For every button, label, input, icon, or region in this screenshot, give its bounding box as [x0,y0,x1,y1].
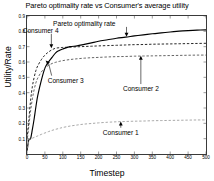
y-tick-label: 0.9 [19,14,25,19]
annotation-arrow [119,121,123,127]
annotation-arrow [46,60,52,75]
x-tick-label: 300 [131,155,139,160]
curve-annotation-label: Consumer 1 [103,128,139,135]
x-tick-label: 400 [166,155,174,160]
y-tick-label: 0.3 [19,106,25,111]
y-tick-label: 0.4 [19,90,25,95]
x-tick-label: 500 [202,155,210,160]
y-tick-label: 0.5 [19,75,25,80]
x-tick-label: 450 [184,155,192,160]
annotation-arrow [125,27,129,37]
y-tick-label: 0.2 [19,121,25,126]
series-line [27,43,206,138]
annotation-arrow [139,56,143,84]
x-tick-label: 350 [148,155,156,160]
x-tick-label: 100 [59,155,67,160]
annotation-arrow [49,34,53,48]
x-tick-label: 200 [95,155,103,160]
plot-area: 0.10.20.30.40.50.60.70.80.9 050100150200… [26,15,207,155]
curve-annotation-label: Pareto optimality rate [53,19,115,26]
x-tick-label: 0 [26,155,29,160]
x-axis-label: Timestep [0,168,214,178]
y-tick-label: 0.1 [19,136,25,141]
chart-figure: Pareto optimality rate vs Consumer's ave… [0,0,214,181]
y-tick-label: 0.6 [19,60,25,65]
x-tick-label: 250 [113,155,121,160]
curve-annotation-label: Consumer 4 [23,26,59,33]
curve-annotation-label: Consumer 2 [123,85,159,92]
chart-title: Pareto optimality rate vs Consumer's ave… [0,1,214,10]
series-line [27,120,206,153]
y-axis-label: Utility/Rate [3,36,13,98]
x-tick-label: 150 [77,155,85,160]
x-tick-label: 50 [42,155,47,160]
curve-annotation-label: Consumer 3 [48,76,84,83]
y-tick-label: 0.7 [19,44,25,49]
